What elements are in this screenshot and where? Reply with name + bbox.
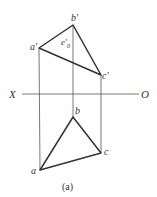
projection-diagram: X O b′ a′ c′ e′0 b c a (a)	[0, 0, 157, 197]
label-a-prime: a′	[30, 41, 38, 52]
label-a: a	[31, 165, 36, 176]
label-c-prime: c′	[102, 70, 109, 81]
projector-a	[39, 48, 40, 170]
axis-label-o: O	[141, 88, 149, 100]
label-e-prime: e′0	[61, 37, 70, 49]
figure-caption: (a)	[62, 181, 73, 193]
label-b-prime: b′	[71, 12, 79, 23]
label-c: c	[104, 146, 109, 157]
axis-label-x: X	[8, 88, 17, 100]
label-b: b	[75, 105, 80, 116]
top-view-triangle	[40, 117, 101, 170]
front-view-triangle	[39, 25, 101, 75]
